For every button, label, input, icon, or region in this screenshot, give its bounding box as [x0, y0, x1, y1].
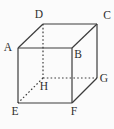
edge-AD: [18, 24, 43, 48]
vertex-label-A: A: [4, 41, 13, 53]
edge-FG: [72, 78, 97, 103]
vertex-label-D: D: [35, 8, 43, 20]
cube-diagram: ABCDEFGH: [0, 0, 114, 129]
vertex-label-G: G: [100, 72, 108, 84]
cube-figure-svg: ABCDEFGH: [0, 0, 114, 129]
vertex-label-E: E: [11, 105, 18, 117]
vertex-label-F: F: [71, 105, 77, 117]
vertex-label-H: H: [40, 80, 48, 92]
vertex-label-C: C: [103, 9, 111, 21]
vertex-label-B: B: [74, 48, 82, 60]
edge-BC: [72, 24, 97, 48]
